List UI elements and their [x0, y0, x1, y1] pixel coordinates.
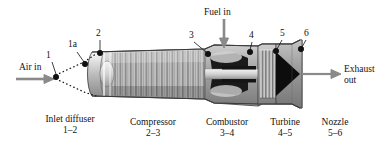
station-dot-2 — [97, 50, 102, 55]
component-range-compressor: 2–3 — [146, 128, 160, 138]
fuel-in-arrow — [220, 19, 229, 48]
component-range-nozzle: 5–6 — [328, 128, 342, 138]
component-name-turbine: Turbine — [270, 117, 300, 127]
inlet-hub — [100, 61, 114, 87]
component-caption-turbine: Turbine 4–5 — [259, 117, 311, 138]
turbine-blade-stages — [260, 50, 275, 98]
fuel-in-label: Fuel in — [204, 7, 231, 18]
station-label-4: 4 — [249, 30, 254, 40]
component-caption-inlet-diffuser: Inlet diffuser 1–2 — [22, 114, 118, 135]
figure-canvas: Air in Fuel in Exhaust out 1 1a 2 3 4 5 … — [0, 0, 383, 148]
component-name-inlet-diffuser: Inlet diffuser — [45, 114, 94, 124]
component-name-nozzle: Nozzle — [322, 117, 349, 127]
engine-body — [88, 40, 303, 108]
component-caption-nozzle: Nozzle 5–6 — [311, 117, 359, 138]
station-dot-1a — [82, 61, 87, 66]
exhaust-out-line1: Exhaust — [344, 64, 375, 74]
station-dot-1 — [53, 74, 58, 79]
station-dot-6 — [298, 46, 303, 51]
component-name-combustor: Combustor — [206, 117, 248, 127]
component-caption-combustor: Combustor 3–4 — [190, 117, 264, 138]
station-dot-5 — [273, 48, 278, 53]
component-caption-compressor: Compressor 2–3 — [114, 117, 192, 138]
component-range-combustor: 3–4 — [220, 128, 234, 138]
component-name-compressor: Compressor — [130, 117, 176, 127]
station-label-5: 5 — [280, 28, 285, 38]
air-in-label: Air in — [19, 62, 41, 73]
air-in-arrow — [16, 75, 54, 84]
component-range-inlet-diffuser: 1–2 — [63, 125, 77, 135]
exhaust-out-arrow — [302, 70, 341, 79]
station-label-6: 6 — [304, 28, 309, 38]
station-label-1a: 1a — [68, 39, 77, 49]
exhaust-out-line2: out — [344, 75, 356, 85]
station-label-3: 3 — [189, 30, 194, 40]
station-label-1: 1 — [46, 50, 51, 60]
component-range-turbine: 4–5 — [278, 128, 292, 138]
engine-shaft — [205, 69, 260, 79]
station-label-2: 2 — [96, 28, 101, 38]
station-dot-4 — [247, 49, 252, 54]
exhaust-out-label: Exhaust out — [344, 64, 375, 85]
station-dot-3 — [205, 51, 210, 56]
